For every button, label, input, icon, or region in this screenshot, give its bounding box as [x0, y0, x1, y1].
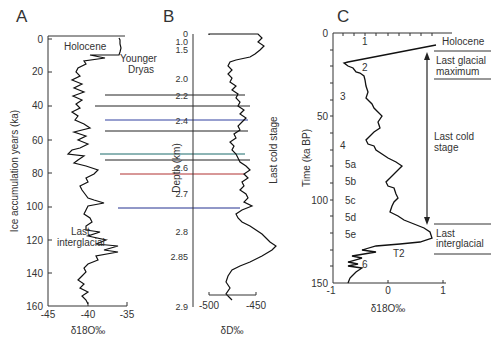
- svg-text:-40: -40: [81, 309, 96, 320]
- panel-a-label: A: [16, 7, 28, 26]
- svg-text:-35: -35: [120, 309, 135, 320]
- panel-b: 0 1.0 1.5 2.0 2.2 2.4 2.6 2.7 2.8 2.85 2…: [170, 29, 279, 336]
- svg-text:2.0: 2.0: [175, 74, 188, 84]
- svg-text:1: 1: [362, 36, 368, 47]
- svg-text:50: 50: [317, 111, 329, 122]
- svg-text:2: 2: [362, 62, 368, 73]
- svg-text:2.8: 2.8: [175, 227, 188, 237]
- lcs-label-line1: Last cold: [434, 131, 474, 142]
- b-series-line: [209, 34, 276, 300]
- svg-text:5e: 5e: [345, 229, 357, 240]
- svg-text:40: 40: [32, 100, 44, 111]
- svg-text:140: 140: [26, 268, 43, 279]
- c-y-ticks: 0 50 100 150: [311, 28, 328, 289]
- lgm-label-line2: maximum: [436, 66, 479, 77]
- svg-text:5b: 5b: [345, 176, 357, 187]
- a-y-ticks: 0 20 40 60 80 100 120 140 160: [26, 34, 43, 312]
- c-stage-labels: 1 2 3 4 5a 5b 5c 5d 5e 6 T2: [340, 36, 405, 270]
- panel-a: 0 20 40 60 80 100 120 140 160 -45 -40 -3…: [9, 34, 158, 336]
- c-x-axis-label: δ18O‰: [371, 303, 405, 314]
- svg-text:T2: T2: [393, 248, 405, 259]
- svg-text:20: 20: [32, 66, 44, 77]
- c-holocene-label: Holocene: [442, 36, 485, 47]
- svg-text:2.85: 2.85: [170, 252, 188, 262]
- svg-text:100: 100: [311, 195, 328, 206]
- c-series-line: [344, 45, 436, 283]
- svg-text:5d: 5d: [345, 212, 356, 223]
- c-y-axis-label: Time (ka BP): [301, 129, 312, 187]
- dryas-label: Dryas: [128, 64, 154, 75]
- younger-label: Younger: [120, 53, 158, 64]
- svg-text:4: 4: [340, 140, 346, 151]
- panel-b-label: B: [163, 7, 174, 26]
- last-label: Last: [71, 226, 90, 237]
- svg-text:5c: 5c: [345, 195, 356, 206]
- lgm-label-line1: Last glacial: [436, 55, 486, 66]
- c-x-ticks: -1 0 1: [327, 285, 447, 296]
- svg-text:-500: -500: [199, 300, 219, 311]
- figure: A B C 0 20 40 60 80 100 120 140 160 -45 …: [0, 0, 503, 344]
- svg-text:2.9: 2.9: [175, 302, 188, 312]
- svg-text:5a: 5a: [345, 159, 357, 170]
- interglacial-label: interglacial: [57, 237, 105, 248]
- a-x-axis-label: δ18O‰: [71, 325, 105, 336]
- panel-c: 0 50 100 150 -1 0 1 δ18O‰ Time (ka BP) 1…: [301, 28, 491, 314]
- svg-text:0: 0: [385, 285, 391, 296]
- svg-text:2.2: 2.2: [175, 91, 188, 101]
- a-x-ticks: -45 -40 -35: [41, 309, 135, 320]
- svg-text:-450: -450: [246, 300, 266, 311]
- svg-text:-45: -45: [41, 309, 56, 320]
- holocene-label: Holocene: [64, 41, 107, 52]
- a-y-axis-label: Ice accumulation years (ka): [9, 110, 20, 232]
- panel-c-label: C: [337, 7, 349, 26]
- svg-text:0: 0: [322, 28, 328, 39]
- svg-text:0: 0: [37, 34, 43, 45]
- svg-text:-1: -1: [327, 285, 336, 296]
- svg-text:1.5: 1.5: [175, 45, 188, 55]
- lcs-label-line2: stage: [434, 142, 459, 153]
- svg-text:80: 80: [32, 168, 44, 179]
- svg-text:2.4: 2.4: [175, 116, 188, 126]
- svg-text:60: 60: [32, 135, 44, 146]
- b-x-axis-label: δD‰: [221, 325, 244, 336]
- svg-text:100: 100: [26, 201, 43, 212]
- last-cold-stage-label: Last cold stage: [268, 116, 279, 184]
- svg-text:6: 6: [362, 259, 368, 270]
- svg-text:120: 120: [26, 235, 43, 246]
- svg-text:3: 3: [340, 91, 346, 102]
- a-series-line: [68, 38, 121, 304]
- b-x-ticks: -500 -450: [199, 300, 266, 311]
- b-y-axis-label: Depth (km): [171, 143, 182, 192]
- svg-text:1: 1: [440, 285, 446, 296]
- li-label-line2: interglacial: [436, 238, 484, 249]
